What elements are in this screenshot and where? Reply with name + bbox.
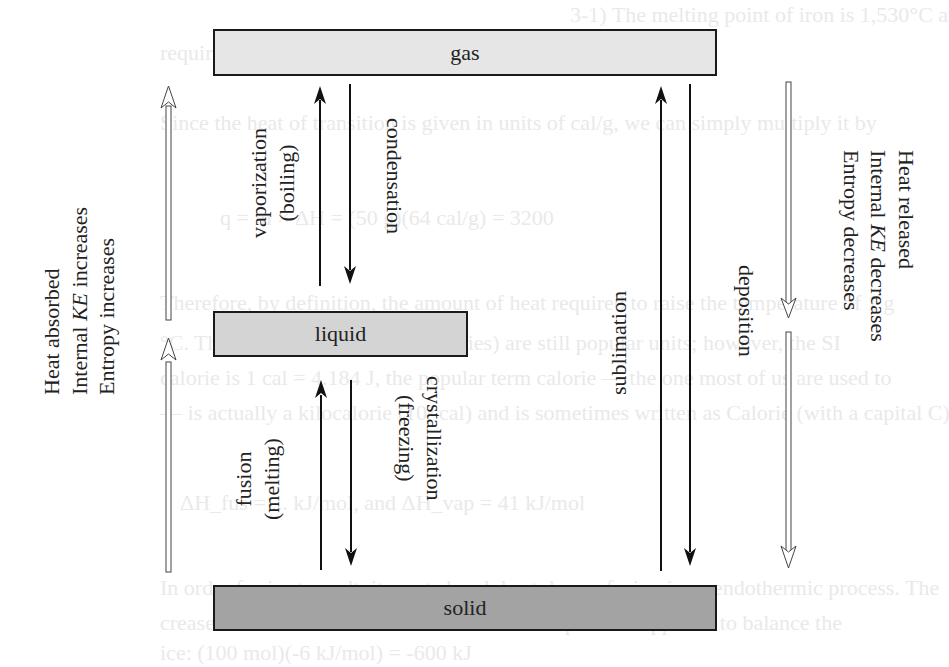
heat-released-lower-arrow-icon bbox=[781, 332, 796, 568]
left-legend: Heat absorbed Internal KE increases Entr… bbox=[38, 207, 121, 395]
sublimation-label: sublimation bbox=[605, 291, 633, 395]
vaporization-label: vaporization (boiling) bbox=[245, 128, 300, 238]
heat-released-upper-arrow-icon bbox=[781, 82, 796, 318]
right-legend-line2: Internal KE decreases bbox=[865, 150, 893, 342]
right-legend-line3: Entropy decreases bbox=[838, 150, 866, 342]
condensation-label: condensation bbox=[381, 118, 409, 234]
fusion-label: fusion (melting) bbox=[230, 438, 285, 520]
crystallization-label: crystallization (freezing) bbox=[393, 376, 448, 501]
deposition-label: deposition bbox=[733, 265, 761, 357]
heat-absorbed-lower-arrow-icon bbox=[161, 338, 176, 572]
right-legend: Heat released Internal KE decreases Entr… bbox=[838, 150, 921, 342]
heat-absorbed-upper-arrow-icon bbox=[161, 86, 176, 320]
left-legend-line3: Entropy increases bbox=[93, 207, 121, 395]
condensation-arrow-icon bbox=[344, 84, 356, 284]
crystallization-arrow-icon bbox=[345, 380, 357, 566]
right-legend-line1: Heat released bbox=[893, 150, 921, 342]
sublimation-arrow-icon bbox=[655, 86, 667, 571]
left-legend-line1: Heat absorbed bbox=[38, 207, 66, 395]
left-legend-line2: Internal KE increases bbox=[66, 207, 94, 395]
arrows-layer bbox=[0, 0, 949, 667]
fusion-arrow-icon bbox=[315, 380, 327, 570]
deposition-arrow-icon bbox=[684, 84, 696, 566]
vaporization-arrow-icon bbox=[314, 86, 326, 286]
